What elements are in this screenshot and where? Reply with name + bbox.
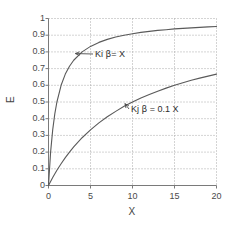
- annotation-ki-prefix: Ki: [95, 49, 106, 59]
- plot-area: [0, 0, 232, 225]
- annotation-ki-suffix: = X: [111, 49, 125, 59]
- annotation-label-kj: Kj β = 0.1 X: [131, 104, 179, 114]
- annotation-kj-suffix: = 0.1 X: [147, 104, 178, 114]
- chart-container: E X 00.10.20.30.40.50.60.70.80.91 051015…: [0, 0, 232, 225]
- annotation-leader-lines: [75, 52, 129, 109]
- annotation-kj-prefix: Kj: [131, 104, 142, 114]
- annotation-label-ki: Ki β= X: [95, 49, 125, 59]
